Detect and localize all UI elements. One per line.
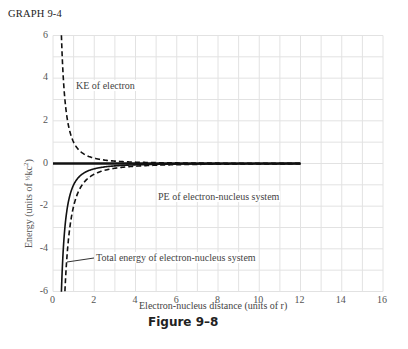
annotation-ke: KE of electron <box>75 80 136 91</box>
x-tick-label: 16 <box>377 294 387 305</box>
x-tick-label: 2 <box>91 294 96 305</box>
x-axis-label: Electron-nucleus distance (units of r) <box>139 300 287 311</box>
y-tick-label: -2 <box>40 199 48 210</box>
x-tick-label: 12 <box>295 294 305 305</box>
y-tick-label: 2 <box>43 114 48 125</box>
x-tick-label: 4 <box>133 294 138 305</box>
figure-caption: Figure 9–8 <box>148 315 218 329</box>
energy-chart <box>0 0 408 349</box>
y-tick-label: -4 <box>40 242 48 253</box>
y-tick-label: -6 <box>40 285 48 296</box>
y-tick-label: 0 <box>43 157 48 168</box>
annotation-total: Total energy of electron-nucleus system <box>95 252 257 263</box>
x-tick-label: 14 <box>336 294 346 305</box>
x-tick-label: 0 <box>50 294 55 305</box>
annotation-pe: PE of electron-nucleus system <box>157 191 280 202</box>
y-axis-label: Energy (units of ½kc2) <box>22 159 34 248</box>
y-tick-label: 4 <box>43 71 48 82</box>
y-tick-label: 6 <box>43 29 48 40</box>
